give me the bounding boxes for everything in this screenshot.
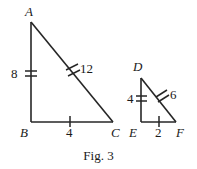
vertex-label-e: E — [129, 126, 137, 139]
figure-canvas — [0, 0, 197, 169]
measure-label-ef: 2 — [155, 126, 162, 139]
figure-caption: Fig. 3 — [0, 148, 197, 163]
vertex-label-c: C — [111, 126, 120, 139]
triangle-abc — [25, 22, 113, 127]
measure-label-df: 6 — [170, 88, 177, 101]
measure-label-ac: 12 — [80, 62, 93, 75]
vertex-label-b: B — [20, 126, 28, 139]
tick-marks-ac — [66, 64, 80, 76]
vertex-label-f: F — [176, 126, 184, 139]
geometry-figure: A B C D E F 8 4 12 4 2 6 Fig. 3 — [0, 0, 197, 169]
segment-ac — [31, 22, 113, 122]
triangle-def — [136, 78, 176, 127]
measure-label-ab: 8 — [11, 67, 18, 80]
measure-label-de: 4 — [127, 92, 134, 105]
vertex-label-a: A — [25, 5, 33, 18]
measure-label-bc: 4 — [66, 126, 73, 139]
vertex-label-d: D — [133, 60, 142, 73]
